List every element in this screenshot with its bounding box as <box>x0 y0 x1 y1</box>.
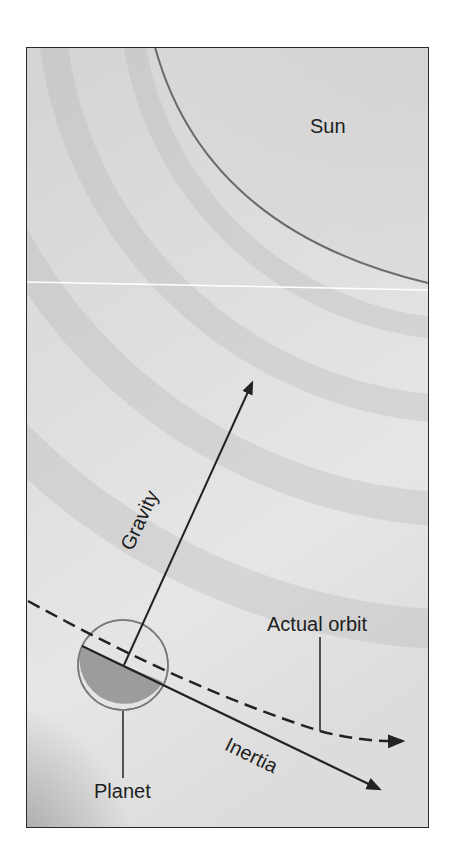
diagram-canvas <box>26 47 429 828</box>
planet-label: Planet <box>94 781 151 801</box>
sun-label: Sun <box>310 116 346 136</box>
actual-orbit-label: Actual orbit <box>267 614 367 634</box>
orbit-diagram: Sun Gravity Actual orbit Inertia Planet <box>26 47 429 828</box>
